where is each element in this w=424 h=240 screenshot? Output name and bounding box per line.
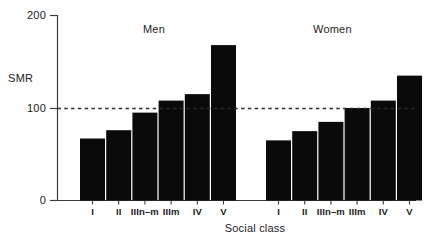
bar-women-V xyxy=(397,76,422,201)
bar-men-IV xyxy=(185,94,210,200)
bar-men-IIIm xyxy=(159,101,184,201)
bar-men-IIIn-m xyxy=(132,113,157,201)
bar-men-I xyxy=(80,139,105,201)
category-label-women-V: V xyxy=(386,207,424,217)
bar-women-IV xyxy=(371,101,396,201)
bar-women-I xyxy=(266,140,291,200)
y-tick-label-100: 100 xyxy=(8,103,46,114)
smr-bar-chart: 200 100 0 SMR Men Women IIIIIIn–mIIImIVV… xyxy=(0,0,424,240)
bar-women-II xyxy=(292,131,317,200)
bar-men-V xyxy=(211,45,236,200)
y-tick-label-200: 200 xyxy=(8,10,46,21)
y-axis-title: SMR xyxy=(8,73,33,84)
group-title-women: Women xyxy=(313,24,352,35)
bar-men-II xyxy=(106,130,131,200)
y-tick-label-0: 0 xyxy=(8,195,46,206)
category-label-men-V: V xyxy=(200,207,248,217)
bar-women-IIIn-m xyxy=(318,122,343,201)
bars-layer xyxy=(80,45,422,200)
bar-women-IIIm xyxy=(345,108,370,201)
chart-canvas xyxy=(0,0,424,240)
group-title-men: Men xyxy=(143,24,165,35)
x-ticks-layer xyxy=(93,201,410,205)
x-axis-title: Social class xyxy=(205,223,305,234)
